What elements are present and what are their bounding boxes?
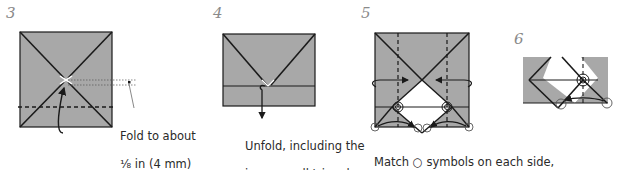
step-3-caption-line2: ¹⁄₈ in (4 mm) bbox=[120, 157, 220, 170]
step-5-diagram bbox=[371, 33, 473, 133]
step-5-caption-line1: Match ○ symbols on each side, bbox=[374, 155, 554, 169]
step-4-diagram bbox=[223, 34, 315, 118]
step-3-diagram bbox=[18, 32, 136, 133]
step-3-caption-line1: Fold to about bbox=[120, 129, 220, 143]
step-5-caption: Match ○ symbols on each side, folding al… bbox=[374, 141, 554, 170]
step-4-caption: Unfold, including the inner small triang… bbox=[245, 125, 365, 170]
step-4-caption-line2: inner small triangle. bbox=[245, 167, 365, 170]
step-4-caption-line1: Unfold, including the bbox=[245, 139, 365, 153]
step-3-caption: Fold to about ¹⁄₈ in (4 mm) below the ce… bbox=[120, 115, 220, 170]
step-6-diagram bbox=[523, 57, 612, 109]
